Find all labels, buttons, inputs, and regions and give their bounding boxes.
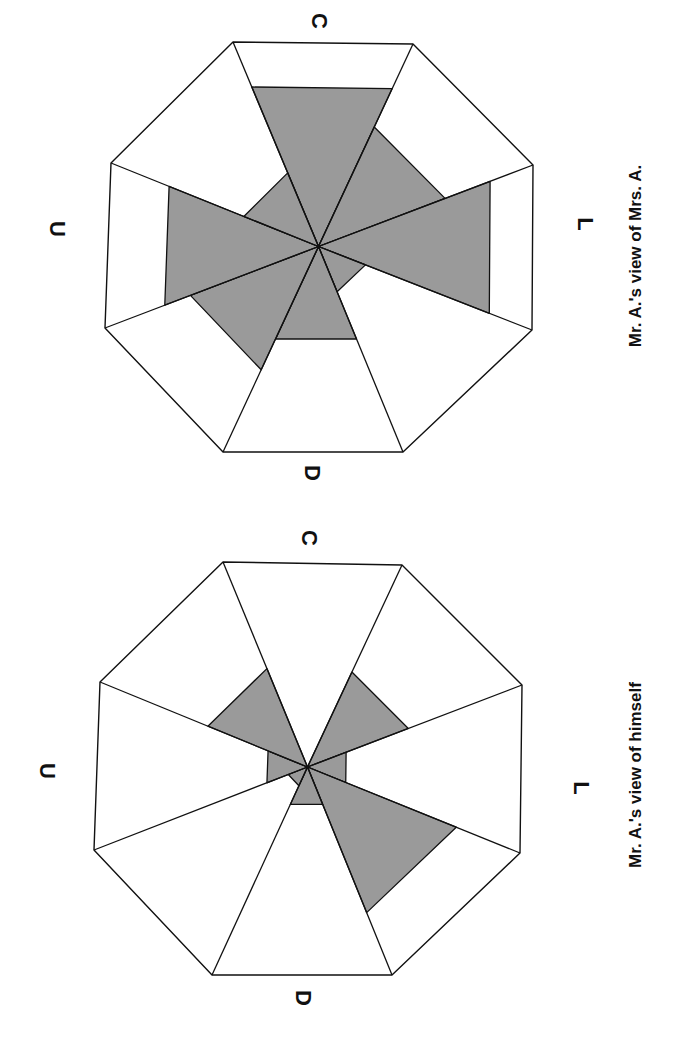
axis-label-d: D: [291, 990, 316, 1006]
axis-label-u: U: [35, 763, 60, 779]
chart-view-of-himself: [94, 562, 522, 975]
axis-label-c: C: [297, 530, 322, 546]
axis-label-d: D: [300, 465, 325, 481]
axis-label-u: U: [45, 221, 70, 237]
axis-label-c: C: [307, 13, 332, 29]
figure: C L D U Mr. A.'s view of Mrs. A. C L D U…: [0, 0, 675, 1060]
axis-label-l: L: [573, 217, 598, 230]
chart-caption: Mr. A.'s view of himself: [626, 682, 645, 868]
chart-caption: Mr. A.'s view of Mrs. A.: [626, 165, 645, 347]
chart-view-of-mrs-a: [105, 42, 533, 452]
axis-label-l: L: [569, 781, 594, 794]
